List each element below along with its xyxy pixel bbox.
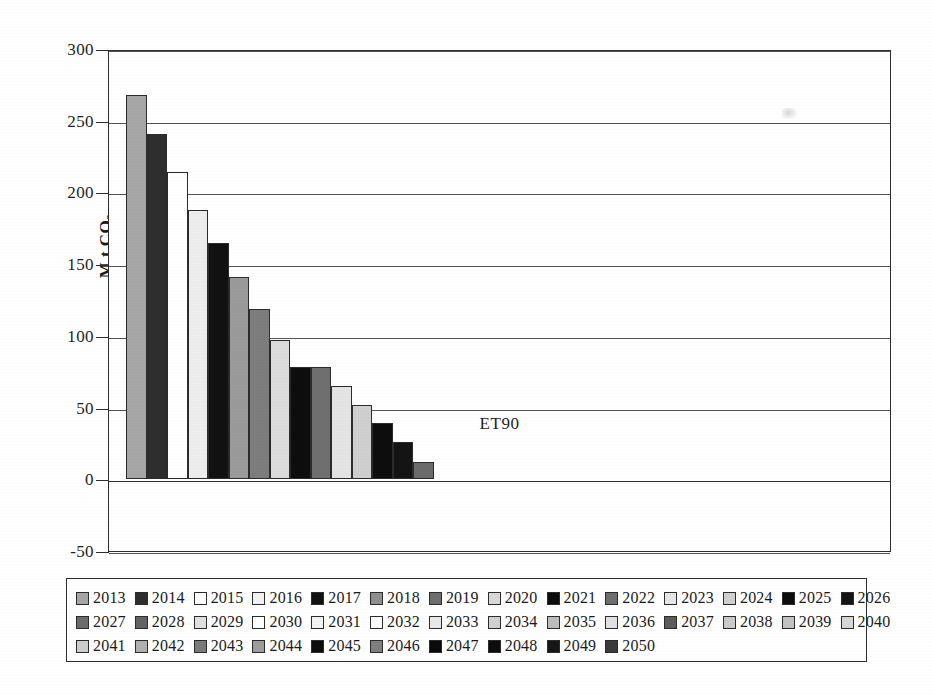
legend-label-2046: 2046 bbox=[387, 637, 420, 655]
legend-swatch-icon-2050 bbox=[605, 640, 618, 653]
legend-item-2020[interactable]: 2020 bbox=[488, 589, 538, 607]
legend-item-2026[interactable]: 2026 bbox=[841, 589, 891, 607]
legend-item-2035[interactable]: 2035 bbox=[547, 613, 597, 631]
legend-item-2034[interactable]: 2034 bbox=[488, 613, 538, 631]
legend-item-2041[interactable]: 2041 bbox=[76, 637, 126, 655]
legend-swatch-icon-2015 bbox=[194, 592, 207, 605]
y-tick-250 bbox=[96, 122, 109, 123]
bar-2016 bbox=[188, 210, 209, 480]
y-tick-label-50: 50 bbox=[32, 399, 94, 419]
legend-label-2013: 2013 bbox=[93, 589, 126, 607]
legend-item-2033[interactable]: 2033 bbox=[429, 613, 479, 631]
legend-label-2044: 2044 bbox=[269, 637, 302, 655]
legend-item-2038[interactable]: 2038 bbox=[723, 613, 773, 631]
y-tick-label-100: 100 bbox=[32, 327, 94, 347]
legend-swatch-icon-2048 bbox=[488, 640, 501, 653]
legend-item-2042[interactable]: 2042 bbox=[135, 637, 185, 655]
legend-item-2027[interactable]: 2027 bbox=[76, 613, 126, 631]
y-tick-label-250: 250 bbox=[32, 112, 94, 132]
legend-swatch-icon-2024 bbox=[723, 592, 736, 605]
legend-swatch-icon-2041 bbox=[76, 640, 89, 653]
legend-swatch-icon-2034 bbox=[488, 616, 501, 629]
legend-label-2022: 2022 bbox=[622, 589, 655, 607]
legend-label-2050: 2050 bbox=[622, 637, 655, 655]
legend-label-2025: 2025 bbox=[799, 589, 832, 607]
legend-item-2040[interactable]: 2040 bbox=[841, 613, 891, 631]
legend-label-2035: 2035 bbox=[564, 613, 597, 631]
legend-item-2023[interactable]: 2023 bbox=[664, 589, 714, 607]
legend-item-2028[interactable]: 2028 bbox=[135, 613, 185, 631]
legend-item-2025[interactable]: 2025 bbox=[782, 589, 832, 607]
y-tick-label-0: 0 bbox=[32, 470, 94, 490]
legend-row-2: 2027202820292030203120322033203420352036… bbox=[76, 610, 857, 634]
legend-label-2040: 2040 bbox=[858, 613, 891, 631]
legend-swatch-icon-2040 bbox=[841, 616, 854, 629]
bar-2019 bbox=[249, 309, 270, 480]
plot-area: ET90 bbox=[108, 50, 891, 552]
y-tick-0 bbox=[96, 480, 109, 481]
y-tick-150 bbox=[96, 265, 109, 266]
legend-label-2043: 2043 bbox=[211, 637, 244, 655]
legend-item-2045[interactable]: 2045 bbox=[311, 637, 361, 655]
legend-label-2016: 2016 bbox=[269, 589, 302, 607]
legend-item-2049[interactable]: 2049 bbox=[547, 637, 597, 655]
legend-item-2046[interactable]: 2046 bbox=[370, 637, 420, 655]
legend-item-2048[interactable]: 2048 bbox=[488, 637, 538, 655]
legend-item-2050[interactable]: 2050 bbox=[605, 637, 655, 655]
legend-item-2013[interactable]: 2013 bbox=[76, 589, 126, 607]
legend-swatch-icon-2021 bbox=[547, 592, 560, 605]
legend-swatch-icon-2023 bbox=[664, 592, 677, 605]
legend-item-2022[interactable]: 2022 bbox=[605, 589, 655, 607]
legend-item-2043[interactable]: 2043 bbox=[194, 637, 244, 655]
legend-label-2033: 2033 bbox=[446, 613, 479, 631]
legend-label-2020: 2020 bbox=[505, 589, 538, 607]
legend-item-2018[interactable]: 2018 bbox=[370, 589, 420, 607]
legend-item-2032[interactable]: 2032 bbox=[370, 613, 420, 631]
legend-swatch-icon-2045 bbox=[311, 640, 324, 653]
legend-item-2047[interactable]: 2047 bbox=[429, 637, 479, 655]
legend-item-2031[interactable]: 2031 bbox=[311, 613, 361, 631]
legend-swatch-icon-2035 bbox=[547, 616, 560, 629]
legend-label-2038: 2038 bbox=[740, 613, 773, 631]
legend-item-2016[interactable]: 2016 bbox=[252, 589, 302, 607]
legend-item-2036[interactable]: 2036 bbox=[605, 613, 655, 631]
legend-label-2014: 2014 bbox=[152, 589, 185, 607]
bar-2026 bbox=[393, 442, 414, 479]
legend-swatch-icon-2018 bbox=[370, 592, 383, 605]
legend-swatch-icon-2036 bbox=[605, 616, 618, 629]
legend-swatch-icon-2042 bbox=[135, 640, 148, 653]
y-tick-50 bbox=[96, 409, 109, 410]
y-tick-label-150: 150 bbox=[32, 255, 94, 275]
legend-label-2031: 2031 bbox=[328, 613, 361, 631]
legend-item-2014[interactable]: 2014 bbox=[135, 589, 185, 607]
legend-swatch-icon-2032 bbox=[370, 616, 383, 629]
legend-item-2015[interactable]: 2015 bbox=[194, 589, 244, 607]
legend-swatch-icon-2016 bbox=[252, 592, 265, 605]
legend-swatch-icon-2029 bbox=[194, 616, 207, 629]
bar-2020 bbox=[270, 340, 291, 479]
legend-swatch-icon-2031 bbox=[311, 616, 324, 629]
legend-swatch-icon-2022 bbox=[605, 592, 618, 605]
gridline--50 bbox=[109, 553, 890, 554]
legend-item-2021[interactable]: 2021 bbox=[547, 589, 597, 607]
legend-item-2030[interactable]: 2030 bbox=[252, 613, 302, 631]
legend-item-2037[interactable]: 2037 bbox=[664, 613, 714, 631]
legend-label-2036: 2036 bbox=[622, 613, 655, 631]
legend-swatch-icon-2014 bbox=[135, 592, 148, 605]
legend-item-2039[interactable]: 2039 bbox=[782, 613, 832, 631]
legend-swatch-icon-2038 bbox=[723, 616, 736, 629]
legend-item-2019[interactable]: 2019 bbox=[429, 589, 479, 607]
legend-label-2026: 2026 bbox=[858, 589, 891, 607]
legend-label-2032: 2032 bbox=[387, 613, 420, 631]
legend-swatch-icon-2039 bbox=[782, 616, 795, 629]
legend-item-2017[interactable]: 2017 bbox=[311, 589, 361, 607]
legend: 2013201420152016201720182019202020212022… bbox=[66, 578, 867, 662]
legend-item-2044[interactable]: 2044 bbox=[252, 637, 302, 655]
legend-swatch-icon-2044 bbox=[252, 640, 265, 653]
legend-label-2018: 2018 bbox=[387, 589, 420, 607]
legend-swatch-icon-2047 bbox=[429, 640, 442, 653]
legend-item-2029[interactable]: 2029 bbox=[194, 613, 244, 631]
bar-2027 bbox=[413, 462, 434, 479]
legend-item-2024[interactable]: 2024 bbox=[723, 589, 773, 607]
legend-swatch-icon-2028 bbox=[135, 616, 148, 629]
